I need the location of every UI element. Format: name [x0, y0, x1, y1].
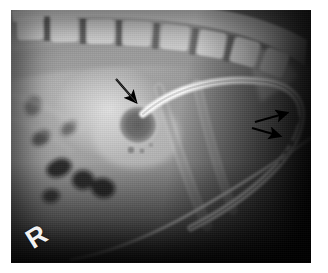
- radiograph-image: R: [11, 10, 311, 263]
- arrow-pointing-to-round-lucency: [116, 79, 136, 102]
- annotation-arrow-layer: [11, 10, 311, 263]
- arrow-pointing-to-upper-tube-marker: [255, 113, 287, 122]
- arrow-pointing-to-lower-tube-marker: [252, 128, 280, 136]
- radiograph-figure: R: [0, 0, 328, 273]
